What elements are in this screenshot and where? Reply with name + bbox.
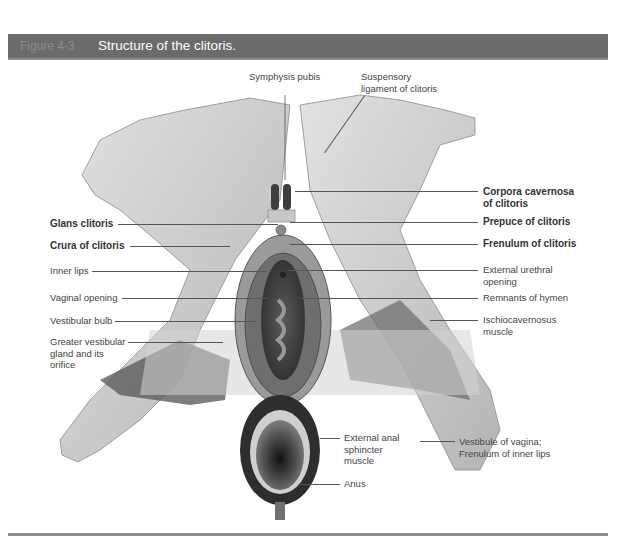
coccyx-stem [275,502,285,520]
corpora-right [283,184,291,210]
right-pelvic-tissue [300,95,500,470]
figure-header: Figure 4-3 Structure of the clitoris. [8,34,608,60]
figure-number: Figure 4-3 [20,39,75,53]
label-crura-of-clitoris: Crura of clitoris [50,240,124,252]
clitoral-body [268,210,295,222]
label-external-urethral-opening: External urethral opening [483,264,553,287]
label-glans-clitoris: Glans clitoris [50,218,113,230]
label-suspensory-ligament: Suspensory ligament of clitoris [361,71,437,94]
label-inner-lips: Inner lips [50,265,89,277]
label-ischiocavernosus-muscle: Ischiocavernosus muscle [483,314,556,337]
label-remnants-of-hymen: Remnants of hymen [483,292,568,304]
label-corpora-cavernosa: Corpora cavernosa of clitoris [483,186,574,209]
label-greater-vestibular-gland: Greater vestibular gland and its orifice [50,336,126,371]
label-anus: Anus [344,478,366,490]
label-vaginal-opening: Vaginal opening [50,292,117,304]
urethral-opening [280,272,286,278]
label-frenulum-of-clitoris: Frenulum of clitoris [483,238,576,250]
label-prepuce-of-clitoris: Prepuce of clitoris [483,216,570,228]
label-vestibular-bulb: Vestibular bulb [50,315,112,327]
anus-center [256,420,304,490]
label-vestibule-of-vagina: Vestibule of vagina; Frenulum of inner l… [459,436,550,459]
bottom-rule [8,533,608,536]
glans [276,225,286,235]
label-external-anal-sphincter: External anal sphincter muscle [344,432,399,467]
figure-title: Structure of the clitoris. [98,38,236,53]
label-symphysis-pubis: Symphysis pubis [249,71,320,83]
corpora-left [271,184,279,210]
